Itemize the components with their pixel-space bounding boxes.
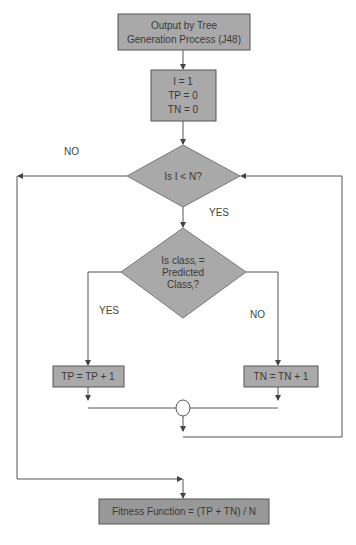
node-init-line1: I = 1 bbox=[173, 76, 193, 87]
node-start: Output by Tree Generation Process (J48) bbox=[118, 14, 250, 50]
edge-label-class-no: NO bbox=[250, 309, 265, 320]
node-start-line1: Output by Tree bbox=[151, 20, 218, 31]
edge-label-loop-no: NO bbox=[64, 146, 79, 157]
node-tp-increment: TP = TP + 1 bbox=[53, 366, 124, 387]
node-fitness: Fitness Function = (TP + TN) / N bbox=[99, 499, 269, 524]
node-loop-check-text: Is I < N? bbox=[164, 171, 202, 182]
node-start-line2: Generation Process (J48) bbox=[127, 34, 241, 45]
edge-loop-no-down bbox=[17, 176, 182, 479]
node-init-line2: TP = 0 bbox=[168, 90, 198, 101]
edge-class-yes bbox=[88, 272, 121, 365]
node-merge-connector bbox=[176, 400, 190, 416]
node-tn-increment: TN = TN + 1 bbox=[244, 366, 318, 387]
node-init: I = 1 TP = 0 TN = 0 bbox=[151, 70, 216, 121]
edge-label-loop-yes: YES bbox=[209, 207, 229, 218]
node-init-line3: TN = 0 bbox=[168, 104, 199, 115]
node-class-check-line1: Is classi = bbox=[161, 255, 204, 267]
flowchart-canvas: Output by Tree Generation Process (J48) … bbox=[0, 0, 356, 545]
node-class-check-line3: Classi? bbox=[167, 279, 199, 291]
edge-merge-to-loop bbox=[183, 176, 342, 437]
node-class-check: Is classi = Predicted Classi? bbox=[121, 228, 246, 318]
node-tp-increment-text: TP = TP + 1 bbox=[61, 371, 115, 382]
edge-label-class-yes: YES bbox=[99, 305, 119, 316]
node-class-check-line2: Predicted bbox=[162, 267, 204, 278]
node-fitness-text: Fitness Function = (TP + TN) / N bbox=[112, 506, 256, 517]
node-loop-check: Is I < N? bbox=[127, 145, 240, 207]
node-tn-increment-text: TN = TN + 1 bbox=[254, 371, 309, 382]
